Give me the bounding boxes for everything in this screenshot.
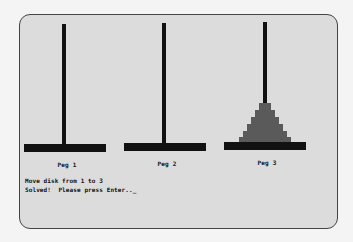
peg-1-pole <box>62 24 66 145</box>
peg-3-label: Peg 3 <box>225 159 309 166</box>
status-message: Solved! Please press Enter.._ <box>25 186 136 193</box>
peg-1-base <box>24 144 106 152</box>
peg-3-base <box>224 142 306 150</box>
peg-2-base <box>124 143 206 151</box>
peg-2-pole <box>162 23 166 144</box>
peg-2-label: Peg 2 <box>125 160 209 167</box>
last-move-message: Move disk from 1 to 3 <box>25 177 103 184</box>
disk-3 <box>251 117 279 124</box>
disk-1 <box>259 103 271 110</box>
disk-2 <box>255 110 275 117</box>
disk-4 <box>247 124 283 131</box>
game-window: Peg 1 Peg 2 Peg 3 Move disk from 1 to 3 … <box>19 14 338 229</box>
peg-1-label: Peg 1 <box>25 161 109 168</box>
